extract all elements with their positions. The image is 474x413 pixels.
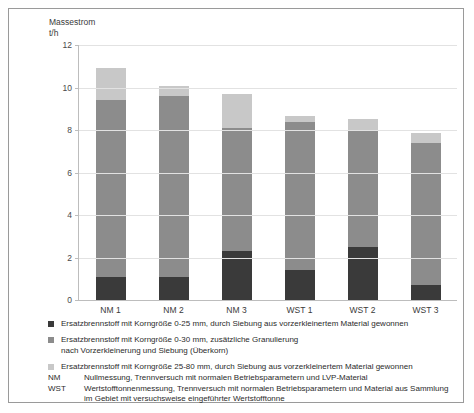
y-axis-tick-label: 0 [67, 295, 72, 305]
footnote-row: NMNullmessung, Trennversuch mit normalen… [48, 373, 460, 384]
footnote-text: Nullmessung, Trennversuch mit normalen B… [84, 373, 368, 382]
plot-area-wrapper: NM 1NM 2NM 3WST 1WST 2WST 3 024681012 [9, 9, 465, 309]
chart-footnotes: NMNullmessung, Trennversuch mit normalen… [48, 373, 460, 405]
bar-segment [348, 130, 378, 247]
footnote-row: WSTWertstofftonnenmessung, Trennversuch … [48, 384, 460, 405]
y-axis-tick [75, 88, 79, 89]
legend-item: Ersatzbrennstoff mit Korngröße 25-80 mm,… [48, 362, 458, 373]
legend-swatch-icon [48, 364, 54, 370]
plot-area: NM 1NM 2NM 3WST 1WST 2WST 3 024681012 [78, 45, 457, 301]
bar-group[interactable]: NM 2 [159, 86, 189, 300]
gridline [79, 173, 457, 174]
y-axis-tick [75, 173, 79, 174]
bar-segment [411, 285, 441, 300]
y-axis-tick [75, 215, 79, 216]
y-axis-tick-label: 12 [63, 40, 72, 50]
bar-group[interactable]: WST 3 [411, 133, 441, 300]
chart-legend: Ersatzbrennstoff mit Korngröße 0-25 mm, … [48, 319, 458, 378]
y-axis-tick [75, 300, 79, 301]
bar-group[interactable]: NM 3 [222, 94, 252, 300]
y-axis-tick-label: 2 [67, 253, 72, 263]
bar-segment [348, 247, 378, 300]
chart-figure: Massestrom t/h NM 1NM 2NM 3WST 1WST 2WST… [8, 8, 464, 403]
bar-segment [285, 270, 315, 300]
legend-item: Ersatzbrennstoff mit Korngröße 0-30 mm, … [48, 335, 458, 356]
bar-segment [348, 119, 378, 130]
gridline [79, 258, 457, 259]
legend-label: Ersatzbrennstoff mit Korngröße 25-80 mm,… [61, 362, 413, 371]
bar-segment [222, 94, 252, 128]
x-axis-category-label: WST 3 [389, 305, 463, 315]
y-axis-tick [75, 130, 79, 131]
bar-segment [411, 133, 441, 143]
bar-segment [411, 143, 441, 285]
bar-segment [222, 128, 252, 251]
bar-segment [96, 277, 126, 300]
legend-label: Ersatzbrennstoff mit Korngröße 0-30 mm, … [61, 335, 298, 355]
gridline [79, 45, 457, 46]
legend-swatch-icon [48, 321, 54, 327]
gridline [79, 215, 457, 216]
legend-label: Ersatzbrennstoff mit Korngröße 0-25 mm, … [61, 319, 408, 328]
y-axis-tick-label: 10 [63, 83, 72, 93]
y-axis-tick-label: 4 [67, 210, 72, 220]
y-axis-tick-label: 8 [67, 125, 72, 135]
bar-segment [96, 68, 126, 100]
legend-item: Ersatzbrennstoff mit Korngröße 0-25 mm, … [48, 319, 458, 330]
bar-group[interactable]: WST 2 [348, 119, 378, 300]
legend-swatch-icon [48, 337, 54, 343]
y-axis-tick-label: 6 [67, 168, 72, 178]
footnote-text: Wertstofftonnenmessung, Trennversuch mit… [84, 384, 448, 404]
bar-segment [96, 100, 126, 276]
gridline [79, 88, 457, 89]
bar-segment [159, 277, 189, 300]
y-axis-tick [75, 45, 79, 46]
bar-segment [159, 96, 189, 277]
bar-group[interactable]: WST 1 [285, 116, 315, 300]
bar-segment [285, 122, 315, 271]
footnote-key: NM [48, 373, 60, 384]
y-axis-tick [75, 258, 79, 259]
gridline [79, 130, 457, 131]
footnote-key: WST [48, 384, 66, 395]
bar-group[interactable]: NM 1 [96, 68, 126, 300]
